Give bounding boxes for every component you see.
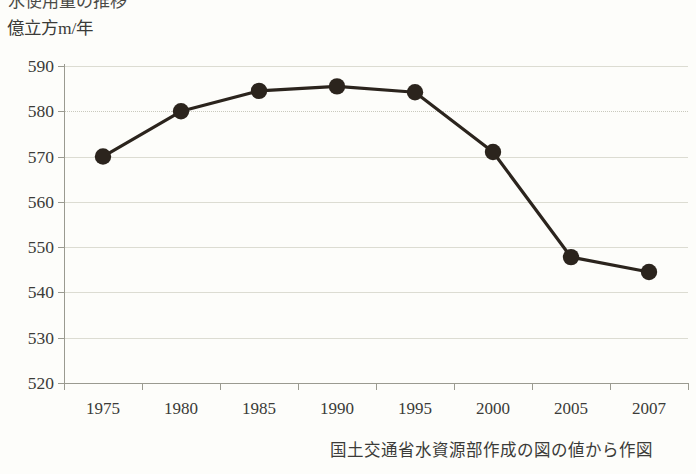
x-axis-tick-label: 2007: [632, 399, 666, 419]
x-axis-tick-label: 2000: [476, 399, 510, 419]
y-axis-tick: [58, 111, 64, 112]
gridline: [64, 338, 688, 339]
chart-page: 水使用量の推移 億立方m/年 590580570560550540530520 …: [0, 0, 696, 474]
y-axis-tick-label: 550: [10, 237, 54, 258]
source-caption: 国土交通省水資源部作成の図の値から作図: [330, 437, 653, 461]
x-axis-tick: [454, 384, 455, 390]
gridline: [64, 292, 688, 293]
y-axis-tick-label: 560: [10, 191, 54, 212]
gridline: [64, 111, 688, 112]
x-axis-tick: [64, 384, 65, 390]
gridline: [64, 247, 688, 248]
x-axis-tick-label: 1975: [86, 399, 120, 419]
y-axis-tick: [58, 66, 64, 67]
y-axis-tick: [58, 338, 64, 339]
gridline: [64, 66, 688, 67]
y-axis-line: [64, 64, 65, 385]
y-axis-tick: [58, 247, 64, 248]
x-axis-tick: [298, 384, 299, 390]
x-axis-tick-label: 1980: [164, 399, 198, 419]
y-axis-labels: 590580570560550540530520: [8, 0, 54, 474]
clipped-title-strip: 水使用量の推移: [0, 0, 696, 11]
y-axis-tick-label: 540: [10, 282, 54, 303]
y-axis-tick-label: 570: [10, 146, 54, 167]
y-axis-tick-label: 580: [10, 101, 54, 122]
x-axis-tick-label: 1995: [398, 399, 432, 419]
y-axis-tick: [58, 157, 64, 158]
y-axis-tick: [58, 292, 64, 293]
x-axis-tick: [376, 384, 377, 390]
y-axis-tick-label: 520: [10, 373, 54, 394]
y-axis-tick-label: 590: [10, 56, 54, 77]
x-axis-tick: [688, 384, 689, 390]
x-axis-tick: [220, 384, 221, 390]
y-axis-tick: [58, 202, 64, 203]
y-axis-tick-label: 530: [10, 327, 54, 348]
x-axis-tick-label: 1990: [320, 399, 354, 419]
x-axis-tick: [142, 384, 143, 390]
x-axis-tick-label: 1985: [242, 399, 276, 419]
plot-area: [64, 66, 688, 383]
x-axis-tick: [610, 384, 611, 390]
x-axis-tick: [532, 384, 533, 390]
x-axis-tick-label: 2005: [554, 399, 588, 419]
gridline: [64, 202, 688, 203]
gridline: [64, 157, 688, 158]
